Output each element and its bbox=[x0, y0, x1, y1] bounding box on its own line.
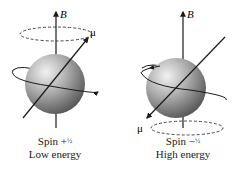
caption-spin-minus-half: Spin −½ High energy bbox=[128, 135, 238, 161]
precession-path-dashed bbox=[151, 121, 223, 135]
spin-label: Spin −½ bbox=[128, 135, 238, 148]
energy-label: High energy bbox=[128, 148, 238, 161]
b-field-label: B bbox=[60, 8, 67, 20]
caption-spin-plus-half: Spin +½ Low energy bbox=[0, 135, 110, 161]
panel-spin-plus-half: B μ bbox=[12, 8, 98, 128]
mu-label: μ bbox=[90, 26, 96, 38]
mu-label: μ bbox=[137, 122, 143, 134]
energy-label: Low energy bbox=[0, 148, 110, 161]
b-field-label: B bbox=[187, 8, 194, 20]
spin-label: Spin +½ bbox=[0, 135, 110, 148]
panel-spin-minus-half: B μ bbox=[137, 8, 226, 135]
